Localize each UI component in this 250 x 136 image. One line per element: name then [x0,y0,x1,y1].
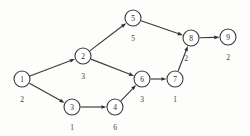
arrowhead-6-to-7 [161,77,166,81]
edge-2-to-5 [90,26,122,51]
node-6[interactable]: 6 [134,71,150,87]
arrowhead-1-to-3 [59,99,64,103]
node-label-8: 8 [189,34,193,43]
directed-graph: 123456789 231653122 [0,0,250,136]
nodes-group: 123456789 [14,10,236,115]
node-label-6: 6 [140,75,144,84]
edge-1-to-2 [30,61,70,76]
arrowhead-2-to-6 [129,72,135,76]
node-weight-7: 1 [173,95,177,104]
arrowhead-3-to-4 [101,105,106,109]
edge-4-to-6 [121,89,133,101]
node-9[interactable]: 9 [220,29,236,45]
node-label-5: 5 [131,14,135,23]
node-2[interactable]: 2 [75,48,91,64]
node-weight-9: 2 [226,53,230,62]
node-label-9: 9 [226,33,230,42]
node-label-4: 4 [113,103,117,112]
weights-group: 231653122 [20,34,230,132]
node-label-1: 1 [20,75,24,84]
node-1[interactable]: 1 [14,71,30,87]
node-label-3: 3 [70,103,74,112]
node-weight-4: 6 [113,123,117,132]
node-weight-1: 2 [20,95,24,104]
node-weight-3: 1 [70,123,74,132]
node-8[interactable]: 8 [183,30,199,46]
edge-2-to-6 [91,59,129,74]
arrowhead-5-to-8 [177,32,183,35]
node-5[interactable]: 5 [125,10,141,26]
node-label-2: 2 [81,52,85,61]
node-4[interactable]: 4 [107,99,123,115]
node-weight-6: 3 [140,95,144,104]
node-weight-2: 3 [81,72,85,81]
arrowhead-8-to-9 [214,36,219,40]
arrowhead-7-to-8 [184,46,188,52]
node-weight-8: 2 [184,54,188,63]
node-7[interactable]: 7 [167,71,183,87]
diagram-canvas: 123456789 231653122 [0,0,250,136]
arrowhead-1-to-2 [70,59,75,63]
node-weight-5: 5 [131,34,135,43]
node-label-7: 7 [173,75,177,84]
edge-5-to-8 [141,21,178,34]
node-3[interactable]: 3 [64,99,80,115]
edge-1-to-3 [29,83,60,100]
